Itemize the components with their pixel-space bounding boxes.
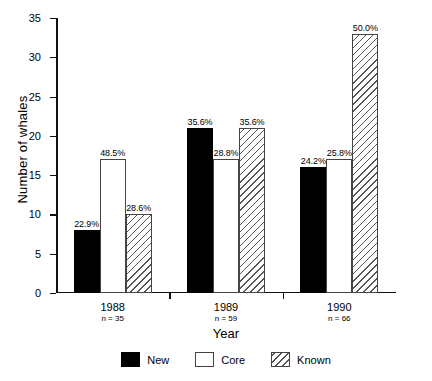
- bar-value-label: 48.5%: [100, 148, 125, 158]
- y-tick: 5: [50, 254, 56, 255]
- bar-value-label: 28.6%: [126, 203, 151, 213]
- chart-legend: NewCoreKnown: [56, 352, 396, 367]
- x-group-sample-size: n = 59: [214, 314, 238, 323]
- x-group-label-1989: 1989n = 59: [214, 301, 238, 323]
- y-tick: 15: [50, 175, 56, 176]
- x-tick: [283, 293, 284, 299]
- bar-value-label: 22.9%: [74, 219, 99, 229]
- legend-label: New: [147, 354, 169, 366]
- bar-value-label: 35.6%: [187, 117, 212, 127]
- x-group-label-1990: 1990n = 66: [327, 301, 351, 323]
- bar-1988-known: 28.6%: [126, 214, 152, 293]
- plot-area: 05101520253035 22.9%48.5%28.6%35.6%28.8%…: [56, 18, 396, 293]
- y-tick: 35: [50, 18, 56, 19]
- bar-1988-core: 48.5%: [100, 159, 126, 293]
- y-tick: 0: [50, 293, 56, 294]
- legend-item-new: New: [121, 352, 169, 367]
- bar-value-label: 28.8%: [213, 148, 238, 158]
- legend-item-core: Core: [195, 352, 245, 367]
- y-tick-label: 30: [29, 51, 41, 63]
- bar-1989-core: 28.8%: [213, 159, 239, 293]
- bar-value-label: 50.0%: [353, 23, 378, 33]
- y-tick-label: 0: [35, 287, 41, 299]
- x-group-sample-size: n = 66: [327, 314, 351, 323]
- legend-label: Core: [221, 354, 245, 366]
- bar-1990-core: 25.8%: [326, 159, 352, 293]
- y-axis-line: [56, 18, 58, 293]
- bar-chart-figure: Number of whales 05101520253035 22.9%48.…: [0, 0, 432, 381]
- bar-1989-new: 35.6%: [187, 128, 213, 293]
- x-group-year: 1990: [327, 301, 351, 313]
- legend-item-known: Known: [271, 352, 331, 367]
- bar-value-label: 24.2%: [301, 156, 326, 166]
- x-axis-title: Year: [56, 326, 396, 341]
- x-group-year: 1988: [100, 301, 124, 313]
- legend-label: Known: [297, 354, 331, 366]
- y-tick-label: 25: [29, 91, 41, 103]
- x-group-year: 1989: [214, 301, 238, 313]
- x-tick: [169, 293, 170, 299]
- x-group-sample-size: n = 35: [100, 314, 124, 323]
- y-tick-label: 35: [29, 12, 41, 24]
- y-tick-label: 15: [29, 169, 41, 181]
- white-swatch: [195, 352, 214, 367]
- x-group-label-1988: 1988n = 35: [100, 301, 124, 323]
- y-tick: 25: [50, 97, 56, 98]
- bar-1988-new: 22.9%: [74, 230, 100, 293]
- y-tick: 30: [50, 57, 56, 58]
- y-axis-title: Number of whales: [15, 70, 30, 230]
- hatched-swatch: [271, 352, 290, 367]
- y-tick: 20: [50, 136, 56, 137]
- bar-1990-new: 24.2%: [300, 167, 326, 293]
- y-tick-label: 20: [29, 130, 41, 142]
- y-tick-label: 10: [29, 208, 41, 220]
- bar-value-label: 25.8%: [327, 148, 352, 158]
- bar-1989-known: 35.6%: [239, 128, 265, 293]
- y-tick: 10: [50, 214, 56, 215]
- bar-value-label: 35.6%: [239, 117, 264, 127]
- bar-1990-known: 50.0%: [352, 34, 378, 293]
- y-tick-label: 5: [35, 248, 41, 260]
- solid-black-swatch: [121, 352, 140, 367]
